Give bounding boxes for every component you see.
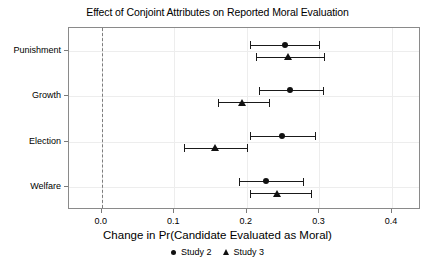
confidence-interval-cap [250,190,251,198]
x-tick-label: 0.0 [94,216,107,226]
confidence-interval-cap [259,87,260,95]
confidence-interval-cap [184,144,185,152]
point-estimate-circle [287,87,293,93]
plot-panel [68,27,420,209]
x-axis-title: Change in Pr(Candidate Evaluated as Mora… [0,229,435,241]
confidence-interval-cap [250,41,251,49]
confidence-interval-cap [269,99,270,107]
legend-item-study-2: Study 2 [171,247,212,257]
confidence-interval-cap [239,178,240,186]
y-tick-mark [64,95,68,96]
y-gridline [69,142,419,143]
point-estimate-circle [279,133,285,139]
x-tick-label: 0.1 [167,216,180,226]
chart-title: Effect of Conjoint Attributes on Reporte… [0,6,435,18]
confidence-interval-bar [239,181,303,182]
x-tick-mark [173,209,174,213]
point-estimate-triangle [284,53,292,60]
confidence-interval-cap [324,53,325,61]
y-tick-mark [64,141,68,142]
y-tick-label-growth: Growth [32,90,61,100]
confidence-interval-cap [218,99,219,107]
y-tick-label-welfare: Welfare [30,181,61,191]
x-gridline [319,28,320,208]
x-tick-mark [101,209,102,213]
confidence-interval-cap [303,178,304,186]
y-tick-label-election: Election [29,136,61,146]
legend-label: Study 3 [234,247,265,257]
confidence-interval-cap [323,87,324,95]
legend-circle-icon [171,250,176,255]
y-tick-mark [64,50,68,51]
confidence-interval-cap [315,132,316,140]
y-tick-label-punishment: Punishment [13,45,61,55]
point-estimate-triangle [211,144,219,151]
x-tick-label: 0.4 [385,216,398,226]
y-gridline [69,96,419,97]
confidence-interval-cap [250,132,251,140]
point-estimate-triangle [273,190,281,197]
legend-item-study-3: Study 3 [223,247,265,257]
chart-legend: Study 2Study 3 [0,247,435,257]
y-gridline [69,51,419,52]
y-tick-mark [64,186,68,187]
zero-reference-line [102,28,103,208]
confidence-interval-cap [319,41,320,49]
point-estimate-circle [282,42,288,48]
confidence-interval-cap [311,190,312,198]
x-tick-mark [318,209,319,213]
point-estimate-triangle [238,99,246,106]
x-gridline [174,28,175,208]
point-estimate-circle [263,178,269,184]
x-tick-label: 0.3 [312,216,325,226]
confidence-interval-cap [247,144,248,152]
x-tick-mark [391,209,392,213]
legend-triangle-icon [223,249,229,255]
y-gridline [69,187,419,188]
x-tick-label: 0.2 [240,216,253,226]
chart-container: Effect of Conjoint Attributes on Reporte… [0,0,435,269]
confidence-interval-cap [256,53,257,61]
x-tick-mark [246,209,247,213]
x-gridline [392,28,393,208]
legend-label: Study 2 [181,247,212,257]
